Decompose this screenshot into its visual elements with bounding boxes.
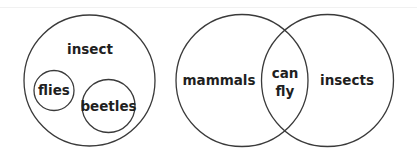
outer-set-circle-insect <box>24 15 155 146</box>
inner-set-label-beetles: beetles <box>80 98 136 114</box>
set-label-mammals: mammals <box>182 72 255 88</box>
venn-diagram: mammals insects can fly <box>176 15 394 147</box>
nested-sets-diagram: insect flies beetles <box>24 15 155 146</box>
outer-set-label: insect <box>67 41 113 57</box>
intersection-label-line2: fly <box>276 83 295 99</box>
diagram-canvas: insect flies beetles mammals insects can… <box>0 0 417 158</box>
set-label-insects: insects <box>320 72 374 88</box>
intersection-label-line1: can <box>272 65 299 81</box>
inner-set-label-flies: flies <box>38 82 70 98</box>
